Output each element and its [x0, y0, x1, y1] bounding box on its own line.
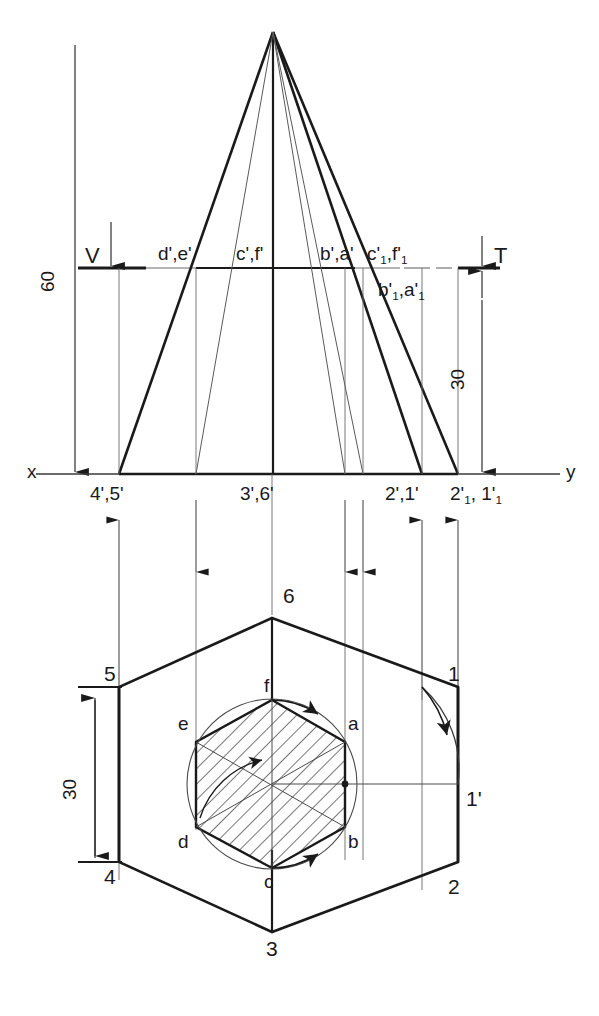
gl-label-4-5: 4',5' — [90, 484, 124, 503]
drawing-canvas: 60 V T 30 d',e' c',f' b',a' c'1,f'1 b'1,… — [0, 0, 599, 1016]
plan-vertex-1: 1 — [448, 663, 460, 684]
plan-vertex-3: 3 — [266, 938, 278, 959]
plan-vertex-5: 5 — [104, 663, 116, 684]
gl-rot-b: , 1' — [471, 483, 496, 504]
c1f1-rest: ,f' — [387, 243, 401, 264]
point-label-de: d',e' — [158, 244, 192, 263]
point-label-b1a1: b'1,a'1 — [378, 280, 425, 299]
plan-vertex-2: 2 — [448, 876, 460, 897]
c1f1-sub2: 1 — [401, 253, 408, 266]
v-trace-group — [78, 222, 500, 298]
gl-label-2-1-rotated: 2'1, 1'1 — [450, 484, 502, 503]
b1a1-p1: b' — [378, 279, 392, 300]
gl-rot-a: 2' — [450, 483, 464, 504]
v-trace-label: V — [85, 245, 100, 267]
gl-rot-b-sub: 1 — [496, 493, 503, 506]
point-label-ba: b',a' — [320, 244, 354, 263]
plan-inner-f: f — [264, 676, 269, 695]
b1a1-p2: ,a' — [399, 279, 418, 300]
dimension-30-plan — [78, 687, 122, 862]
c1f1-base: c' — [367, 243, 380, 264]
plan-inner-d: d — [178, 832, 189, 851]
gl-label-2-1: 2',1' — [385, 484, 419, 503]
technical-drawing-svg — [0, 0, 599, 1016]
gl-rot-a-sub: 1 — [464, 493, 471, 506]
plan-vertex-4: 4 — [104, 866, 116, 887]
b1a1-s1: 1 — [392, 289, 399, 302]
point-label-cf: c',f' — [236, 244, 263, 263]
dimension-label-30-plan: 30 — [60, 779, 79, 800]
axis-label-y: y — [566, 462, 576, 481]
axis-label-x: x — [27, 462, 37, 481]
c1f1-sub: 1 — [380, 253, 387, 266]
plan-inner-e: e — [178, 714, 189, 733]
b1a1-s2: 1 — [418, 289, 425, 302]
t-trace-label: T — [494, 245, 507, 267]
plan-rotated-point-1-prime: 1' — [466, 788, 482, 809]
gl-label-3-6: 3',6' — [240, 484, 274, 503]
plan-inner-a: a — [348, 714, 359, 733]
plan-vertex-6: 6 — [283, 585, 295, 606]
plan-inner-c: c — [264, 872, 274, 891]
point-label-c1f1: c'1,f'1 — [367, 244, 407, 263]
dimension-label-30-front: 30 — [448, 369, 467, 390]
plan-inner-b: b — [348, 832, 359, 851]
dimension-label-60: 60 — [38, 271, 57, 292]
